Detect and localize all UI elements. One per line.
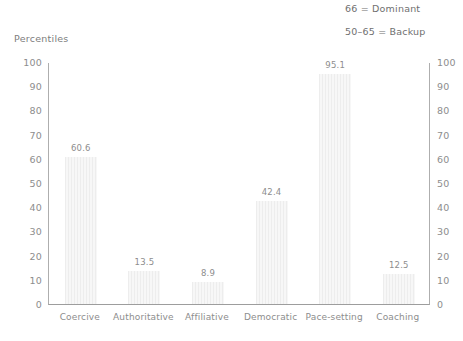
y-tick-left-10: 10	[30, 276, 43, 286]
y-tick-left-80: 80	[30, 106, 43, 116]
bar-coaching[interactable]: 12.5	[383, 274, 415, 304]
bar-value-authoritative: 13.5	[135, 257, 155, 267]
bar-value-affiliative: 8.9	[201, 268, 215, 278]
y-axis-title: Percentiles	[14, 33, 69, 44]
x-axis-labels: Coercive Authoritative Affiliative Democ…	[48, 312, 430, 328]
bar-value-pace-setting: 95.1	[325, 60, 345, 70]
y-tick-right-70: 70	[437, 131, 450, 141]
plot-area: 100 90 80 70 60 50 40 30 20 10 0 100 90 …	[48, 63, 430, 305]
bars-layer: 60.6 13.5 8.9 42.4 95.1 12.5	[49, 63, 429, 304]
bar-slot-affiliative: 8.9	[176, 63, 240, 304]
y-tick-right-90: 90	[437, 82, 450, 92]
bar-affiliative[interactable]: 8.9	[192, 282, 224, 304]
y-tick-left-100: 100	[23, 58, 42, 68]
y-tick-right-20: 20	[437, 252, 450, 262]
annotation-block: 66 = Dominant 50–65 = Backup	[345, 3, 460, 49]
y-tick-left-0: 0	[36, 300, 42, 310]
y-tick-left-20: 20	[30, 252, 43, 262]
bar-democratic[interactable]: 42.4	[256, 201, 288, 304]
bar-authoritative[interactable]: 13.5	[128, 271, 160, 304]
bar-slot-pace-setting: 95.1	[303, 63, 367, 304]
x-label-coaching: Coaching	[366, 312, 430, 322]
y-tick-left-90: 90	[30, 82, 43, 92]
y-tick-left-70: 70	[30, 131, 43, 141]
bar-slot-authoritative: 13.5	[113, 63, 177, 304]
bar-slot-democratic: 42.4	[240, 63, 304, 304]
bar-pace-setting[interactable]: 95.1	[319, 74, 351, 304]
x-label-authoritative: Authoritative	[112, 312, 176, 322]
annotation-dominant: 66 = Dominant	[345, 3, 460, 14]
y-tick-left-30: 30	[30, 227, 43, 237]
bar-coercive[interactable]: 60.6	[65, 157, 97, 304]
y-tick-right-40: 40	[437, 203, 450, 213]
x-label-pace-setting: Pace-setting	[302, 312, 366, 322]
bar-value-coercive: 60.6	[71, 143, 91, 153]
bar-slot-coaching: 12.5	[367, 63, 431, 304]
y-tick-right-80: 80	[437, 106, 450, 116]
bar-slot-coercive: 60.6	[49, 63, 113, 304]
y-tick-right-10: 10	[437, 276, 450, 286]
bar-value-democratic: 42.4	[262, 187, 282, 197]
bar-value-coaching: 12.5	[389, 260, 409, 270]
y-tick-right-0: 0	[437, 300, 443, 310]
y-tick-left-50: 50	[30, 179, 43, 189]
x-label-affiliative: Affiliative	[175, 312, 239, 322]
y-tick-left-40: 40	[30, 203, 43, 213]
x-label-democratic: Democratic	[239, 312, 303, 322]
annotation-backup: 50–65 = Backup	[345, 26, 460, 37]
y-tick-right-100: 100	[437, 58, 456, 68]
x-label-coercive: Coercive	[48, 312, 112, 322]
y-tick-right-30: 30	[437, 227, 450, 237]
y-tick-left-60: 60	[30, 155, 43, 165]
y-tick-right-60: 60	[437, 155, 450, 165]
y-tick-right-50: 50	[437, 179, 450, 189]
